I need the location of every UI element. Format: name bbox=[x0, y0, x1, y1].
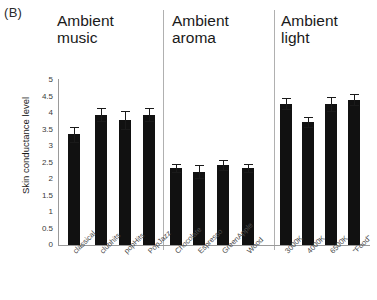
error-bar-cap-top bbox=[172, 164, 181, 165]
group-title-ambient-light: Ambient light bbox=[281, 12, 338, 46]
y-axis-line bbox=[58, 79, 59, 246]
error-bar-cap-top bbox=[97, 108, 106, 109]
error-bar bbox=[199, 165, 200, 178]
error-bar-cap-top bbox=[304, 117, 313, 118]
error-bar-cap-bottom bbox=[350, 105, 359, 106]
error-bar-cap-bottom bbox=[304, 127, 313, 128]
panel-divider-2 bbox=[274, 10, 275, 250]
error-bar-cap-top bbox=[350, 94, 359, 95]
error-bar bbox=[286, 98, 287, 109]
y-tick-label: 1.5 bbox=[31, 191, 53, 200]
bar bbox=[119, 120, 131, 245]
error-bar-cap-bottom bbox=[172, 172, 181, 173]
group-title-ambient-aroma: Ambient aroma bbox=[172, 12, 229, 46]
bar bbox=[68, 134, 80, 245]
y-tick-label: 1 bbox=[31, 207, 53, 216]
error-bar-cap-bottom bbox=[145, 121, 154, 122]
error-bar-cap-top bbox=[244, 164, 253, 165]
bar bbox=[302, 122, 314, 245]
y-tick-label: 4 bbox=[31, 108, 53, 117]
bar bbox=[143, 115, 155, 245]
group-title-ambient-music: Ambient music bbox=[57, 12, 114, 46]
y-tick-label: 3 bbox=[31, 141, 53, 150]
y-axis-title: Skin conductance level bbox=[20, 66, 31, 226]
error-bar bbox=[125, 111, 126, 129]
y-tick-label: 2 bbox=[31, 174, 53, 183]
error-bar-cap-top bbox=[282, 98, 291, 99]
bar bbox=[280, 104, 292, 245]
error-bar bbox=[308, 117, 309, 127]
bar bbox=[348, 100, 360, 245]
y-tick-label: 2.5 bbox=[31, 158, 53, 167]
error-bar-cap-bottom bbox=[327, 111, 336, 112]
error-bar bbox=[331, 97, 332, 110]
error-bar-cap-top bbox=[70, 127, 79, 128]
error-bar bbox=[354, 94, 355, 105]
error-bar-cap-top bbox=[219, 160, 228, 161]
panel-label: (B) bbox=[4, 5, 22, 20]
y-tick-label: 0 bbox=[31, 240, 53, 249]
bar bbox=[325, 104, 337, 245]
error-bar-cap-bottom bbox=[97, 121, 106, 122]
error-bar bbox=[149, 108, 150, 121]
y-tick-label: 3.5 bbox=[31, 125, 53, 134]
panel-divider-1 bbox=[163, 10, 164, 250]
error-bar bbox=[248, 164, 249, 172]
error-bar-cap-top bbox=[327, 97, 336, 98]
error-bar bbox=[74, 127, 75, 142]
error-bar-cap-bottom bbox=[282, 109, 291, 110]
figure-panel-b: (B) Ambient music Ambient aroma Ambient … bbox=[0, 0, 377, 300]
y-tick-label: 0.5 bbox=[31, 224, 53, 233]
y-tick-label: 5 bbox=[31, 75, 53, 84]
error-bar-cap-bottom bbox=[70, 142, 79, 143]
error-bar bbox=[101, 108, 102, 121]
error-bar-cap-top bbox=[145, 108, 154, 109]
error-bar bbox=[223, 160, 224, 170]
error-bar-cap-bottom bbox=[195, 178, 204, 179]
error-bar-cap-bottom bbox=[244, 172, 253, 173]
error-bar-cap-bottom bbox=[121, 129, 130, 130]
error-bar-cap-top bbox=[121, 111, 130, 112]
bar bbox=[95, 115, 107, 245]
error-bar-cap-bottom bbox=[219, 170, 228, 171]
error-bar-cap-top bbox=[195, 165, 204, 166]
error-bar bbox=[176, 164, 177, 172]
y-tick-label: 4.5 bbox=[31, 92, 53, 101]
